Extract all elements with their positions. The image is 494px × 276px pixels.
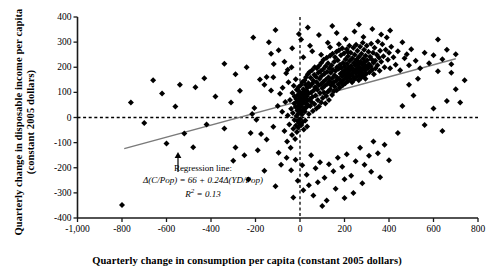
data-point (439, 128, 445, 134)
x-axis-title: Quarterly change in consumption per capi… (0, 255, 494, 266)
data-point (360, 34, 366, 40)
data-point (268, 51, 274, 57)
data-point (406, 62, 412, 68)
x-tick-label: 0 (298, 224, 303, 234)
data-point (241, 152, 247, 158)
data-point (221, 126, 227, 132)
data-point (399, 103, 405, 109)
data-point (212, 93, 218, 99)
data-point (453, 86, 459, 92)
y-tick-label: -400 (42, 213, 72, 223)
data-point (280, 85, 286, 91)
data-point (357, 145, 363, 151)
data-point (258, 131, 264, 137)
data-point (382, 142, 388, 148)
data-point (342, 195, 348, 201)
data-point (413, 58, 419, 64)
data-point (308, 152, 314, 158)
data-point (462, 77, 468, 83)
data-point (284, 155, 290, 161)
y-axis-title-line1: Quarterly change in disposable income pe… (13, 9, 24, 236)
data-point (319, 203, 325, 209)
y-tick-label: 200 (42, 62, 72, 72)
data-point (386, 157, 392, 163)
data-point (336, 41, 342, 47)
data-point (255, 147, 261, 153)
data-point (342, 176, 348, 182)
y-tick-label: -200 (42, 163, 72, 173)
y-tick-label: 400 (42, 12, 72, 22)
data-point (415, 76, 421, 82)
x-tick-label: 800 (471, 224, 485, 234)
data-point (390, 54, 396, 60)
data-point (221, 61, 227, 67)
data-point (353, 158, 359, 164)
x-tick-label: 400 (382, 224, 396, 234)
x-tick-label: -600 (158, 224, 175, 234)
x-tick-label: -200 (247, 224, 264, 234)
data-point (324, 197, 330, 203)
data-point (457, 99, 463, 105)
plot-canvas (0, 0, 494, 276)
data-point (159, 90, 165, 96)
x-tick-label: -800 (113, 224, 130, 234)
data-point (453, 51, 459, 57)
data-point (201, 75, 207, 81)
data-point (244, 64, 250, 70)
data-point (395, 48, 401, 54)
data-point (286, 122, 292, 128)
data-point (362, 162, 368, 168)
data-point (228, 99, 234, 105)
regression-annotation-line1: Regression line: (108, 163, 298, 175)
data-point (251, 105, 257, 111)
y-axis-title-line2: (constant 2005 dollars) (25, 2, 37, 242)
data-point (348, 173, 354, 179)
data-point (352, 29, 358, 35)
data-point (232, 71, 238, 77)
data-point (397, 67, 403, 73)
y-axis-title: Quarterly change in disposable income pe… (13, 2, 37, 242)
x-tick-label: 600 (426, 224, 440, 234)
data-point (250, 35, 256, 41)
data-point (288, 145, 294, 151)
data-point (393, 62, 399, 68)
data-point (284, 139, 290, 145)
data-point (350, 190, 356, 196)
data-point (271, 61, 277, 67)
data-point (339, 164, 345, 170)
data-point (431, 52, 437, 58)
data-point (369, 26, 375, 32)
data-point (150, 77, 156, 83)
data-point (300, 187, 306, 193)
data-point (378, 32, 384, 38)
regression-annotation-rsquared: R2 = 0.13 (108, 186, 298, 201)
data-point (368, 169, 374, 175)
data-point (257, 77, 263, 83)
regression-annotation: Regression line: Δ(C/Pop) = 66 + 0.24Δ(Y… (108, 163, 298, 201)
data-point (329, 23, 335, 29)
data-point (264, 137, 270, 143)
data-point (293, 76, 299, 82)
data-point (192, 84, 198, 90)
data-point (372, 45, 378, 51)
data-point (366, 153, 372, 159)
x-tick-label: -1,000 (65, 224, 90, 234)
data-point (307, 43, 313, 49)
data-point (395, 130, 401, 136)
data-point (264, 74, 270, 80)
data-point (177, 82, 183, 88)
data-point (448, 61, 454, 67)
data-point (315, 179, 321, 185)
data-point (285, 79, 291, 85)
data-point (281, 59, 287, 65)
data-point (190, 144, 196, 150)
data-point (248, 130, 254, 136)
data-point (387, 65, 393, 71)
data-point (377, 48, 383, 54)
data-point (298, 37, 304, 43)
data-point (316, 32, 322, 38)
data-point (335, 155, 341, 161)
data-point (296, 31, 302, 37)
data-point (408, 46, 414, 52)
data-point (417, 65, 423, 71)
